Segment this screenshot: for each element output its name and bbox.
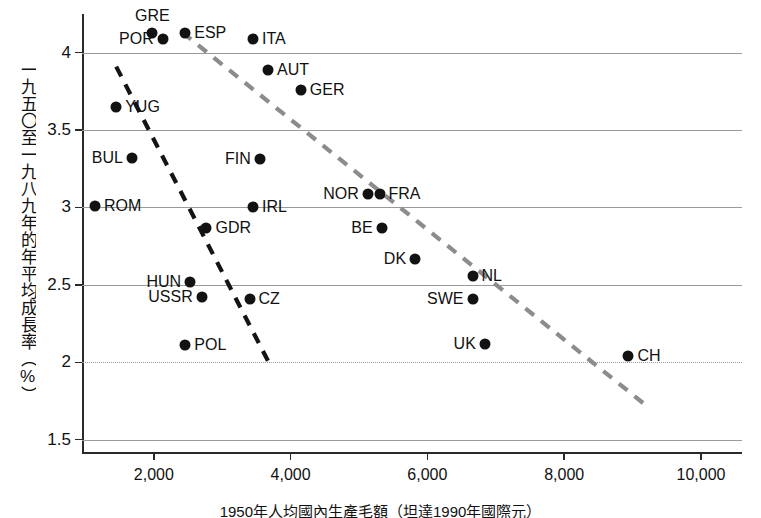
data-label-aut: AUT bbox=[277, 62, 309, 78]
x-tick-2,000 bbox=[153, 452, 154, 460]
data-point-ch[interactable] bbox=[623, 351, 634, 362]
data-label-nor: NOR bbox=[323, 186, 359, 202]
data-point-be[interactable] bbox=[376, 222, 387, 233]
data-point-por[interactable] bbox=[157, 33, 168, 44]
data-label-cz: CZ bbox=[259, 291, 280, 307]
data-point-rom[interactable] bbox=[89, 200, 100, 211]
y-tick-1.5 bbox=[75, 439, 82, 440]
data-label-esp: ESP bbox=[194, 25, 226, 41]
data-point-ger[interactable] bbox=[295, 84, 306, 95]
data-point-yug[interactable] bbox=[111, 101, 122, 112]
data-point-hun[interactable] bbox=[185, 276, 196, 287]
y-tick-label-3: 3 bbox=[62, 197, 71, 217]
plot-area: 2,0004,0006,0008,00010,000 GREPORESPITAA… bbox=[82, 14, 742, 452]
data-point-fin[interactable] bbox=[254, 154, 265, 165]
data-label-fin: FIN bbox=[225, 151, 251, 167]
data-label-irl: IRL bbox=[262, 199, 287, 215]
x-tick-label-2,000: 2,000 bbox=[134, 466, 174, 484]
x-tick-10,000 bbox=[700, 452, 701, 460]
x-tick-label-4,000: 4,000 bbox=[271, 466, 311, 484]
data-point-ussr[interactable] bbox=[196, 292, 207, 303]
x-tick-8,000 bbox=[563, 452, 564, 460]
data-label-be: BE bbox=[351, 220, 372, 236]
data-label-bul: BUL bbox=[92, 150, 123, 166]
x-tick-label-8,000: 8,000 bbox=[544, 466, 584, 484]
data-label-ussr: USSR bbox=[148, 289, 192, 305]
data-label-por: POR bbox=[119, 31, 154, 47]
y-tick-label-4: 4 bbox=[62, 43, 71, 63]
chart-root: 一九五〇至一九八九年的年平均成長率（%） 2,0004,0006,0008,00… bbox=[0, 0, 761, 518]
trend-lines bbox=[82, 14, 742, 452]
data-point-pol[interactable] bbox=[180, 340, 191, 351]
y-tick-3 bbox=[75, 207, 82, 208]
data-point-nor[interactable] bbox=[362, 188, 373, 199]
data-point-swe[interactable] bbox=[467, 293, 478, 304]
data-point-dk[interactable] bbox=[410, 253, 421, 264]
y-tick-label-2: 2 bbox=[62, 352, 71, 372]
data-point-cz[interactable] bbox=[244, 293, 255, 304]
data-label-pol: POL bbox=[194, 337, 226, 353]
y-axis-title: 一九五〇至一九八九年的年平均成長率（%） bbox=[2, 8, 36, 456]
x-axis-title: 1950年人均國內生產毛額（坦達1990年國際元） bbox=[0, 500, 761, 518]
y-tick-3.5 bbox=[75, 129, 82, 130]
x-tick-label-10,000: 10,000 bbox=[676, 466, 725, 484]
data-label-gre: GRE bbox=[135, 8, 170, 24]
western-europe-trend bbox=[183, 33, 647, 406]
data-point-fra[interactable] bbox=[374, 188, 385, 199]
data-label-dk: DK bbox=[384, 251, 406, 267]
data-label-yug: YUG bbox=[125, 99, 160, 115]
y-tick-2.5 bbox=[75, 284, 82, 285]
x-tick-label-6,000: 6,000 bbox=[407, 466, 447, 484]
y-tick-label-1.5: 1.5 bbox=[47, 430, 71, 450]
data-point-nl[interactable] bbox=[467, 270, 478, 281]
data-label-uk: UK bbox=[454, 336, 476, 352]
data-point-gdr[interactable] bbox=[201, 222, 212, 233]
data-label-ger: GER bbox=[310, 82, 345, 98]
data-point-esp[interactable] bbox=[180, 27, 191, 38]
x-tick-4,000 bbox=[290, 452, 291, 460]
y-tick-label-2.5: 2.5 bbox=[47, 275, 71, 295]
y-tick-4 bbox=[75, 52, 82, 53]
data-label-nl: NL bbox=[482, 268, 502, 284]
data-point-ita[interactable] bbox=[247, 33, 258, 44]
y-tick-label-3.5: 3.5 bbox=[47, 120, 71, 140]
y-tick-2 bbox=[75, 362, 82, 363]
data-point-aut[interactable] bbox=[263, 64, 274, 75]
data-point-uk[interactable] bbox=[479, 338, 490, 349]
data-label-rom: ROM bbox=[104, 198, 141, 214]
data-point-irl[interactable] bbox=[247, 202, 258, 213]
x-axis-line bbox=[82, 452, 742, 454]
data-label-ita: ITA bbox=[262, 31, 286, 47]
x-tick-6,000 bbox=[427, 452, 428, 460]
data-label-gdr: GDR bbox=[215, 220, 251, 236]
data-label-fra: FRA bbox=[389, 186, 421, 202]
data-point-bul[interactable] bbox=[126, 152, 137, 163]
data-label-ch: CH bbox=[637, 348, 660, 364]
data-label-swe: SWE bbox=[427, 291, 463, 307]
